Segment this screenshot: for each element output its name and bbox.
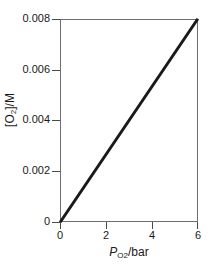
y-axis-title: [O2]/M [4,72,16,148]
henrys-law-line [61,20,197,221]
x-tick-label-2: 2 [86,230,126,241]
y-tick-mark-0.004 [52,120,60,121]
x-axis-title-units: /bar [128,245,149,259]
x-tick-mark-0 [60,222,61,229]
x-tick-mark-4 [152,222,153,229]
x-tick-mark-2 [106,222,107,229]
y-axis-title-subscript: 2 [9,110,18,114]
y-tick-mark-0.008 [52,19,60,20]
x-tick-label-0: 0 [40,230,80,241]
x-axis-title: PO2/bar [60,246,198,258]
y-tick-label-0.002: 0.002 [2,165,50,176]
y-axis-title-lead: [O [3,114,17,127]
y-tick-label-0: 0 [2,216,50,227]
y-tick-mark-0 [52,222,60,223]
y-axis-title-rest: ]/M [3,93,17,110]
chart-figure: 0.008 0.006 0.004 0.002 0 [O2]/M 0 2 4 6… [0,0,219,273]
data-series-line [61,20,197,221]
x-tick-label-4: 4 [132,230,172,241]
y-tick-mark-0.006 [52,70,60,71]
plot-area [60,19,198,222]
y-tick-mark-0.002 [52,171,60,172]
x-tick-label-6: 6 [178,230,218,241]
y-tick-label-0.008: 0.008 [2,13,50,24]
x-tick-mark-6 [197,222,198,229]
